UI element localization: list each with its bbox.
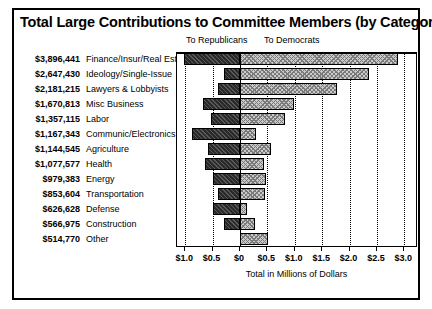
category-name: Other [86,232,109,247]
x-axis-tick [294,247,295,251]
category-name: Energy [86,172,115,187]
category-total-amount: $853,604 [18,187,80,202]
bar-row [177,82,416,97]
category-label-row: $2,181,215Lawyers & Lobbyists [18,82,174,97]
bar-democrat[interactable] [240,53,398,65]
bar-republican[interactable] [208,143,240,155]
bar-democrat[interactable] [240,128,256,140]
bar-republican[interactable] [213,173,240,185]
category-total-amount: $3,896,441 [18,52,80,67]
x-axis-tick [266,247,267,251]
x-axis-title: Total in Millions of Dollars [176,269,417,279]
bar-row [177,217,416,232]
bar-democrat[interactable] [240,143,271,155]
plot-area [176,52,417,247]
bar-row [177,187,416,202]
x-axis-tick-label: $0 [234,253,244,263]
category-label-row: $626,628Defense [18,202,174,217]
category-label-row: $1,077,577Health [18,157,174,172]
category-total-amount: $979,383 [18,172,80,187]
bar-row [177,67,416,82]
bar-democrat[interactable] [240,98,294,110]
x-axis-tick [321,247,322,251]
bar-row [177,202,416,217]
x-axis: $1.0$0.5$0$0.5$1.0$1.5$2.0$2.5$3.0 [176,247,417,269]
bar-democrat[interactable] [240,68,369,80]
category-name: Finance/Insur/Real Est [86,52,177,67]
x-axis-tick [403,247,404,251]
category-total-amount: $2,647,430 [18,67,80,82]
x-axis-tick-label: $1.5 [312,253,330,263]
x-axis-tick-label: $1.0 [175,253,193,263]
category-label-row: $1,357,115Labor [18,112,174,127]
bar-democrat[interactable] [240,218,255,230]
bar-republican[interactable] [218,83,240,95]
x-axis-tick [184,247,185,251]
category-name: Health [86,157,112,172]
bar-republican[interactable] [213,203,240,215]
category-name: Agriculture [86,142,129,157]
x-axis-tick [376,247,377,251]
bar-republican[interactable] [224,218,240,230]
category-total-amount: $514,770 [18,232,80,247]
x-axis-tick [212,247,213,251]
bar-republican[interactable] [192,128,240,140]
bar-republican[interactable] [184,53,240,65]
chart-title: Total Large Contributions to Committee M… [20,14,414,30]
bar-democrat[interactable] [240,203,247,215]
legend-label-republicans: To Republicans [186,35,248,45]
category-total-amount: $1,167,343 [18,127,80,142]
category-label-row: $1,670,813Misc Business [18,97,174,112]
bar-row [177,52,416,67]
category-name: Lawyers & Lobbyists [86,82,169,97]
category-total-amount: $1,144,545 [18,142,80,157]
x-axis-tick-label: $2.5 [367,253,385,263]
x-axis-tick-label: $0.5 [258,253,276,263]
category-label-row: $3,896,441Finance/Insur/Real Est [18,52,174,67]
x-axis-tick [349,247,350,251]
category-total-amount: $1,670,813 [18,97,80,112]
chart-root: Total Large Contributions to Committee M… [0,0,432,309]
bar-democrat[interactable] [240,173,266,185]
bar-row [177,127,416,142]
category-label-row: $514,770Other [18,232,174,247]
category-name: Communic/Electronics [86,127,176,142]
bar-row [177,112,416,127]
category-total-amount: $626,628 [18,202,80,217]
x-axis-tick-label: $1.0 [285,253,303,263]
category-label-row: $2,647,430Ideology/Single-Issue [18,67,174,82]
category-label-row: $853,604Transportation [18,187,174,202]
category-total-amount: $2,181,215 [18,82,80,97]
bar-row [177,172,416,187]
bar-republican[interactable] [205,158,240,170]
bar-republican[interactable] [224,68,240,80]
category-name: Labor [86,112,109,127]
bar-democrat[interactable] [240,83,337,95]
bar-row [177,142,416,157]
x-axis-tick [239,247,240,251]
chart-legend: To Republicans To Democrats [180,35,350,48]
x-axis-tick-label: $3.0 [395,253,413,263]
category-name: Ideology/Single-Issue [86,67,172,82]
category-total-amount: $566,975 [18,217,80,232]
category-label-row: $1,144,545Agriculture [18,142,174,157]
category-name: Construction [86,217,137,232]
category-name: Defense [86,202,120,217]
x-axis-tick-label: $2.0 [340,253,358,263]
category-name: Misc Business [86,97,144,112]
bar-republican[interactable] [218,188,240,200]
category-total-amount: $1,077,577 [18,157,80,172]
category-label-row: $979,383Energy [18,172,174,187]
category-total-amount: $1,357,115 [18,112,80,127]
bar-democrat[interactable] [240,158,264,170]
bar-democrat[interactable] [240,113,285,125]
category-name: Transportation [86,187,144,202]
bar-democrat[interactable] [240,188,265,200]
legend-label-democrats: To Democrats [264,35,320,45]
category-label-row: $1,167,343Communic/Electronics [18,127,174,142]
category-label-column: $3,896,441Finance/Insur/Real Est$2,647,4… [18,52,174,247]
bar-republican[interactable] [203,98,240,110]
bar-republican[interactable] [211,113,240,125]
bar-democrat[interactable] [240,233,268,245]
x-axis-tick-label: $0.5 [203,253,221,263]
